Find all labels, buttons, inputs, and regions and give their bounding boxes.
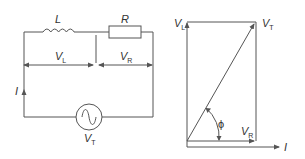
sine-wave-icon	[82, 110, 96, 125]
inductor-symbol	[43, 29, 74, 32]
source-label: VT	[84, 132, 96, 146]
vl-label: VL	[55, 50, 66, 64]
vr-label: VR	[120, 50, 132, 64]
inductor-label: L	[55, 13, 61, 25]
phasor-vr-label: VR	[241, 125, 253, 139]
rl-circuit-diagram: L R VL VR I VT VL VT VR I ϕ	[0, 0, 305, 159]
resistor-label: R	[121, 13, 129, 25]
phasor-vt-label: VT	[262, 17, 274, 31]
current-arrow-icon	[22, 89, 27, 95]
circuit	[22, 26, 154, 130]
phi-label: ϕ	[218, 118, 224, 130]
resistor-symbol	[109, 26, 141, 38]
phasor-vl-label: VL	[174, 17, 185, 31]
phasor-i-label: I	[284, 141, 287, 153]
phi-arc-arrow-bottom-icon	[217, 136, 222, 141]
current-label: I	[15, 85, 18, 97]
phasor-diagram	[187, 22, 279, 147]
